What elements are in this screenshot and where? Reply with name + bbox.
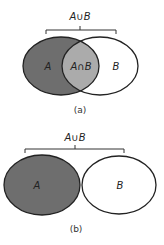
set-a-label-b: A [33, 180, 41, 191]
set-a-label-a: A [44, 61, 52, 72]
caption-a: (a) [74, 105, 87, 115]
set-a-ellipse-b [4, 155, 80, 215]
set-b-label-a: B [113, 61, 120, 72]
figure-a: A∪B A A∩B B (a) [23, 11, 138, 115]
union-bracket-a [46, 26, 116, 34]
set-b-label-b: B [117, 180, 124, 191]
intersection-label: A∩B [69, 61, 91, 72]
union-label-b: A∪B [63, 132, 85, 143]
figure-b: A∪B A B (b) [4, 132, 156, 234]
union-bracket-b [25, 145, 124, 153]
union-label-a: A∪B [68, 11, 90, 22]
caption-b: (b) [70, 224, 83, 234]
venn-diagrams: A∪B A A∩B B (a) A∪B A B (b) [0, 0, 164, 245]
